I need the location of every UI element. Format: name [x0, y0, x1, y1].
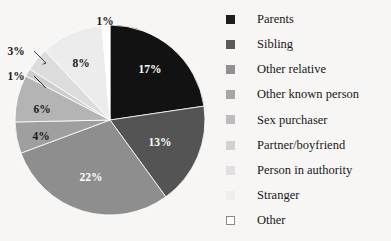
legend-swatch-icon	[226, 115, 235, 124]
legend-swatch-icon	[226, 166, 235, 175]
legend-swatch-icon	[226, 15, 235, 24]
pie-slice-label: 13%	[149, 136, 172, 148]
legend-item[interactable]: Other relative	[222, 58, 391, 80]
legend-item[interactable]: Other	[222, 210, 391, 232]
pie-chart-area: 17%13%22%4%6%1%3%8%1%	[0, 0, 215, 241]
pie-slices-group	[15, 25, 205, 215]
chart-legend: ParentsSiblingOther relativeOther known …	[222, 8, 391, 236]
legend-item-label: Person in authority	[257, 164, 352, 177]
legend-item-label: Sibling	[257, 38, 293, 51]
legend-item-label: Partner/boyfriend	[257, 139, 345, 152]
legend-swatch-icon	[226, 40, 235, 49]
legend-item-label: Other	[257, 214, 285, 227]
pie-slice-label: 22%	[80, 171, 103, 183]
legend-item[interactable]: Stranger	[222, 184, 391, 206]
legend-swatch-icon	[226, 191, 235, 200]
pie-slice-label: 1%	[7, 70, 24, 82]
legend-item-label: Other known person	[257, 88, 359, 101]
pie-slice-label: 6%	[33, 103, 50, 115]
pie-slice-label: 1%	[96, 15, 113, 27]
legend-swatch-icon	[226, 141, 235, 150]
pie-svg: 17%13%22%4%6%1%3%8%1%	[0, 0, 215, 241]
legend-swatch-icon	[226, 216, 235, 225]
legend-item[interactable]: Sibling	[222, 33, 391, 55]
legend-item[interactable]: Person in authority	[222, 159, 391, 181]
legend-item-label: Stranger	[257, 189, 299, 202]
legend-item[interactable]: Other known person	[222, 84, 391, 106]
legend-item-label: Sex purchaser	[257, 114, 327, 127]
pie-slice-label: 3%	[7, 45, 24, 57]
legend-item-label: Parents	[257, 13, 294, 26]
pie-slice-label: 4%	[32, 130, 49, 142]
legend-item-label: Other relative	[257, 63, 326, 76]
pie-chart-figure: 17%13%22%4%6%1%3%8%1% ParentsSiblingOthe…	[0, 0, 391, 241]
pie-slice-label: 8%	[72, 57, 89, 69]
legend-swatch-icon	[226, 65, 235, 74]
legend-item[interactable]: Partner/boyfriend	[222, 134, 391, 156]
legend-item[interactable]: Parents	[222, 8, 391, 30]
pie-slice-label: 17%	[139, 63, 162, 75]
legend-swatch-icon	[226, 90, 235, 99]
legend-item[interactable]: Sex purchaser	[222, 109, 391, 131]
